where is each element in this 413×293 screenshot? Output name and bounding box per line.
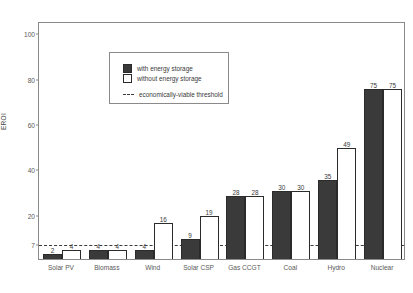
- bar-group: 919: [177, 216, 223, 259]
- bar-group: 416: [131, 223, 177, 259]
- y-tick-label: 100: [24, 31, 35, 38]
- y-tick-label: 80: [28, 76, 35, 83]
- bar-group: 3030: [268, 191, 314, 259]
- bar-with-storage: 4: [89, 250, 108, 259]
- bar-value-label: 49: [343, 141, 350, 148]
- bar-without-storage: 19: [200, 216, 219, 259]
- bar-group: 7575: [360, 89, 406, 259]
- bar-with-storage: 2: [43, 254, 62, 259]
- bar-without-storage: 49: [337, 148, 356, 259]
- bar-with-storage: 35: [318, 180, 337, 259]
- legend-label-without-storage: without energy storage: [137, 75, 202, 82]
- bar-value-label: 4: [97, 243, 101, 250]
- bar-without-storage: 28: [245, 196, 264, 259]
- bar-without-storage: 30: [291, 191, 310, 259]
- bar-value-label: 19: [206, 209, 213, 216]
- x-tick-label: Wind: [145, 264, 160, 271]
- x-tick-label: Solar CSP: [183, 264, 214, 271]
- bar-without-storage: 16: [154, 223, 173, 259]
- x-tick-label: Nuclear: [371, 264, 394, 271]
- bar-value-label: 28: [251, 189, 258, 196]
- bar-group: 24: [39, 250, 85, 259]
- bar-value-label: 75: [389, 82, 396, 89]
- legend-swatch-dark-icon: [123, 64, 132, 73]
- chart-root: EROI 100806040207 2444416919282830303549…: [0, 0, 413, 293]
- y-tick-label: 40: [28, 167, 35, 174]
- plot-frame: 100806040207 24444169192828303035497575 …: [38, 22, 405, 260]
- bar-without-storage: 75: [383, 89, 402, 259]
- bar-with-storage: 28: [226, 196, 245, 259]
- bar-value-label: 35: [324, 173, 331, 180]
- y-axis-label: EROI: [0, 92, 7, 152]
- bar-value-label: 2: [51, 247, 55, 254]
- bar-value-label: 75: [370, 82, 377, 89]
- bar-group: 2828: [223, 196, 269, 259]
- bar-with-storage: 75: [364, 89, 383, 259]
- x-tick-label: Solar PV: [48, 264, 74, 271]
- bar-value-label: 9: [188, 232, 192, 239]
- bar-value-label: 16: [160, 216, 167, 223]
- bar-with-storage: 9: [181, 239, 200, 259]
- chart-legend: with energy storage without energy stora…: [109, 52, 229, 104]
- legend-item-with-storage: with energy storage: [123, 64, 193, 73]
- bar-with-storage: 4: [135, 250, 154, 259]
- legend-item-threshold: economically-viable threshold: [123, 91, 223, 98]
- y-tick-label: 20: [28, 212, 35, 219]
- bar-value-label: 30: [278, 184, 285, 191]
- bar-value-label: 30: [297, 184, 304, 191]
- x-tick-label: Coal: [284, 264, 298, 271]
- bar-value-label: 4: [116, 243, 120, 250]
- y-tick-label: 60: [28, 122, 35, 129]
- bar-without-storage: 4: [108, 250, 127, 259]
- x-tick-label: Gas CCGT: [228, 264, 261, 271]
- legend-item-without-storage: without energy storage: [123, 74, 202, 83]
- bar-group: 44: [85, 250, 131, 259]
- legend-swatch-light-icon: [123, 74, 132, 83]
- x-tick-label: Biomass: [94, 264, 119, 271]
- bar-value-label: 4: [142, 243, 146, 250]
- bar-with-storage: 30: [272, 191, 291, 259]
- bar-value-label: 28: [232, 189, 239, 196]
- bar-group: 3549: [314, 148, 360, 259]
- y-tick-label: 7: [31, 242, 35, 249]
- bar-without-storage: 4: [62, 250, 81, 259]
- x-tick-label: Hydro: [327, 264, 345, 271]
- legend-label-with-storage: with energy storage: [137, 65, 193, 72]
- legend-label-threshold: economically-viable threshold: [139, 91, 223, 98]
- bar-value-label: 4: [70, 243, 74, 250]
- legend-swatch-dashed-line-icon: [123, 94, 134, 95]
